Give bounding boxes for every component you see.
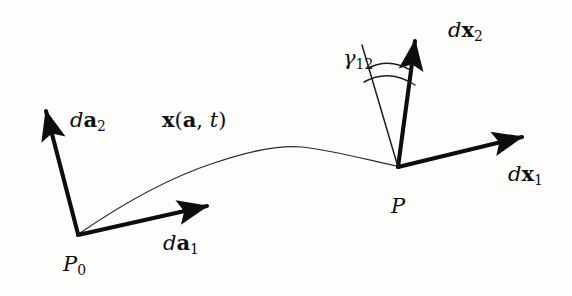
label-motion-argument: a bbox=[183, 107, 197, 132]
figure-canvas bbox=[0, 0, 572, 296]
vector-dx1 bbox=[398, 137, 522, 167]
label-motion-time: t bbox=[210, 108, 218, 132]
label-da1-subscript: 1 bbox=[190, 241, 199, 257]
label-dx2: dx2 bbox=[448, 19, 483, 44]
label-gamma-12: γ12 bbox=[343, 48, 373, 72]
label-dx1: dx1 bbox=[508, 163, 543, 188]
label-da1-vector: a bbox=[176, 230, 190, 255]
label-dx2-vector: x bbox=[461, 17, 474, 42]
label-dx1-d: d bbox=[508, 162, 521, 186]
label-motion-open-paren: ( bbox=[175, 108, 183, 132]
label-motion-map: x(a, t) bbox=[162, 109, 226, 131]
label-da2: da2 bbox=[70, 109, 106, 134]
label-point-P: P bbox=[391, 196, 405, 217]
deformation-figure: da2 da1 x(a, t) dx2 dx1 γ12 P0 P bbox=[0, 0, 572, 296]
label-gamma-symbol: γ bbox=[343, 46, 356, 70]
label-P0-symbol: P bbox=[63, 252, 77, 276]
label-dx1-subscript: 1 bbox=[534, 172, 543, 188]
motion-curve bbox=[80, 147, 396, 233]
gamma-arc-outer bbox=[368, 63, 412, 71]
vector-dx2 bbox=[398, 41, 415, 167]
label-da2-vector: a bbox=[83, 107, 97, 132]
label-point-P0: P0 bbox=[63, 254, 86, 278]
label-dx2-subscript: 2 bbox=[474, 28, 483, 44]
label-P0-subscript: 0 bbox=[77, 262, 86, 278]
label-motion-vector: x bbox=[162, 107, 175, 132]
label-da1: da1 bbox=[163, 232, 199, 257]
label-motion-close-paren: ) bbox=[218, 108, 226, 132]
label-dx2-d: d bbox=[448, 18, 461, 42]
label-da2-subscript: 2 bbox=[97, 118, 106, 134]
label-dx1-vector: x bbox=[521, 161, 534, 186]
label-gamma-subscript: 12 bbox=[356, 56, 374, 72]
label-P-symbol: P bbox=[391, 194, 405, 218]
label-da1-d: d bbox=[163, 231, 176, 255]
label-motion-comma: , bbox=[196, 108, 209, 132]
label-da2-d: d bbox=[70, 108, 83, 132]
